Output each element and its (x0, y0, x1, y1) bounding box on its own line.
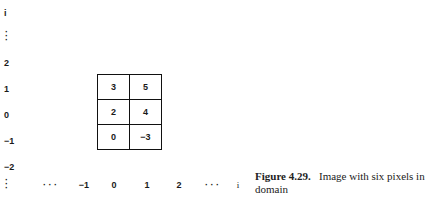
grid-cell: 5 (130, 75, 162, 100)
grid-cell: 2 (98, 100, 130, 125)
x-label-0: 0 (104, 180, 124, 190)
y-axis-ellipsis-bottom: ··· (5, 178, 9, 190)
grid-row: 2 4 (98, 100, 162, 125)
grid-cell: 0 (98, 125, 130, 150)
caption-label: Figure 4.29. (255, 170, 311, 182)
x-label-1: 1 (137, 180, 157, 190)
grid-cell: −3 (130, 125, 162, 150)
y-axis-ellipsis-top: ··· (5, 30, 9, 42)
x-label-minus-1: −1 (74, 180, 94, 190)
y-axis-top-label: i (4, 8, 18, 18)
y-label-2: 2 (4, 58, 18, 68)
y-label-minus-1: −1 (4, 136, 18, 146)
figure-caption: Figure 4.29. Image with six pixels in do… (255, 170, 435, 196)
x-axis-right-ellipsis: · · · (198, 180, 226, 190)
pixel-grid: 3 5 2 4 0 −3 (97, 74, 162, 150)
grid-cell: 3 (98, 75, 130, 100)
grid-cell: 4 (130, 100, 162, 125)
y-label-minus-2: −2 (4, 162, 18, 172)
x-axis-end-label: i (228, 180, 248, 190)
x-label-2: 2 (169, 180, 189, 190)
grid-row: 3 5 (98, 75, 162, 100)
y-label-1: 1 (4, 84, 18, 94)
x-axis-left-ellipsis: · · · (36, 180, 64, 190)
grid-row: 0 −3 (98, 125, 162, 150)
y-label-0: 0 (4, 110, 18, 120)
